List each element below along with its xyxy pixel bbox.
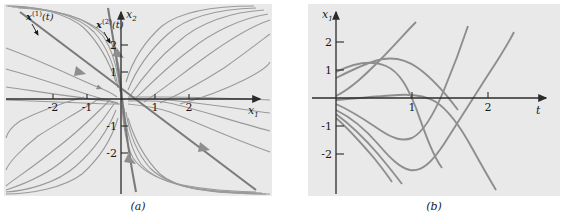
x2-tick-label: 2: [110, 39, 117, 52]
x1-tick-label-b: 2: [325, 36, 332, 49]
panel-a-svg: -2 -1 1 2 2 1 -1 -2 x1 x2 x(1)(t) x(2)(t…: [4, 4, 272, 196]
trajectory-group-q4-down: [122, 105, 270, 194]
x2-tick-label: 1: [110, 66, 117, 79]
trajectory-curve: [144, 20, 270, 102]
panel-b-component-plot: 1 2 2 1 -1 -2 t x1: [308, 4, 560, 196]
trajectory-curve: [6, 118, 118, 194]
trajectory-curve: [134, 14, 268, 100]
x1-tick-label-b: -1: [321, 120, 332, 133]
x2-axis-label: x2: [126, 8, 137, 23]
solution-curve: [336, 22, 416, 96]
trajectory-curve: [6, 87, 119, 104]
x1-axis-label: x1: [248, 104, 259, 119]
solution-curve: [336, 114, 402, 184]
panel-b-svg: 1 2 2 1 -1 -2 t x1: [308, 4, 560, 196]
trajectory-group-q2-in: [6, 48, 120, 104]
x2-tick-label: -1: [106, 120, 117, 133]
trajectory-curve: [124, 108, 262, 193]
solution-curve: [336, 63, 442, 168]
annotation-x1-of-t: x(1)(t): [25, 10, 54, 22]
trajectory-curve: [128, 118, 270, 194]
annotation-x2-of-t: x(2)(t): [95, 18, 124, 30]
trajectory-group-q1-up: [126, 6, 270, 104]
t-tick-label: 1: [409, 101, 416, 114]
figure-container: -2 -1 1 2 2 1 -1 -2 x1 x2 x(1)(t) x(2)(t…: [0, 0, 566, 223]
annotation-leader-2: [104, 32, 110, 43]
x1-axis-label-b: x1: [322, 8, 333, 23]
trajectory-group-q3-down: [6, 97, 118, 194]
trajectory-curve: [126, 6, 254, 82]
x1-tick-label: 1: [152, 101, 159, 114]
trajectory-curve: [122, 105, 256, 192]
x2-tick-label: -2: [106, 147, 117, 160]
x1-tick-label: 2: [186, 101, 193, 114]
caption-panel-a: (a): [108, 200, 168, 213]
x1-tick-label-b: 1: [325, 64, 332, 77]
x1-tick-label: -2: [48, 101, 59, 114]
eigenline-x2-asymptote: [108, 8, 136, 192]
x1-tick-label-b: -2: [321, 148, 332, 161]
x1-tick-label: -1: [82, 101, 93, 114]
t-tick-label: 2: [485, 101, 492, 114]
t-axis-label: t: [536, 104, 541, 117]
caption-panel-b: (b): [404, 200, 464, 213]
panel-a-phase-portrait: -2 -1 1 2 2 1 -1 -2 x1 x2 x(1)(t) x(2)(t…: [4, 4, 272, 196]
